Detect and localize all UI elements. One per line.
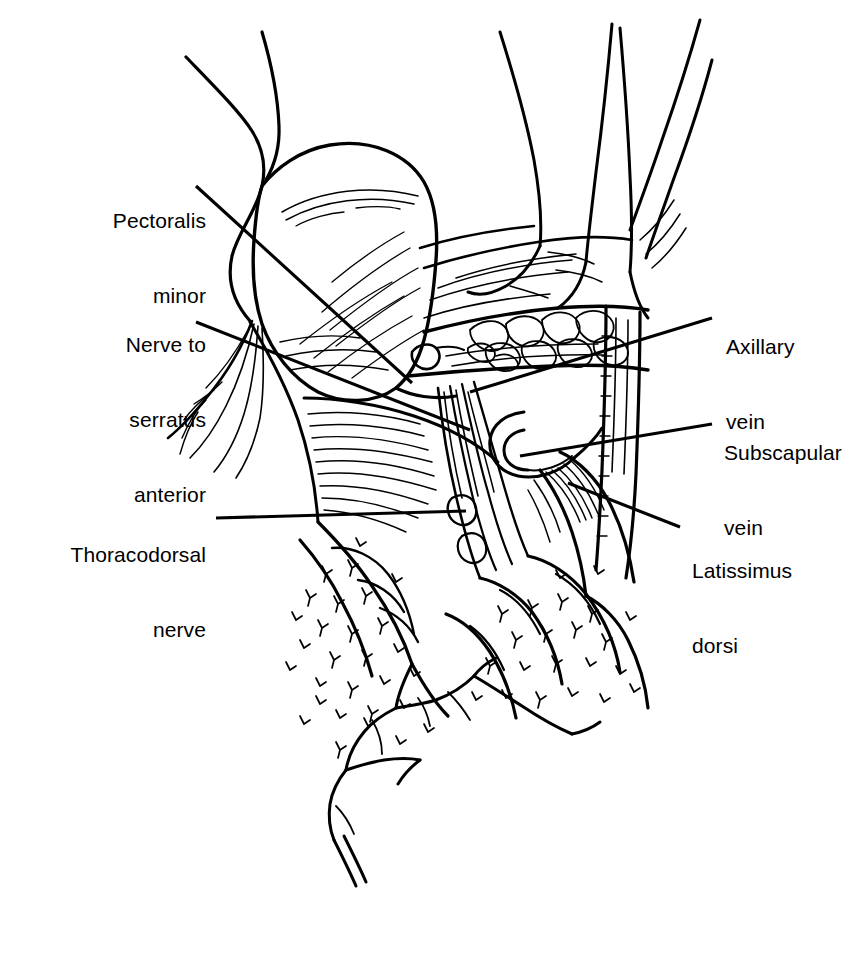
label-subscapular-vein-line1: Subscapular [724,440,864,465]
label-latissimus-dorsi-line1: Latissimus [692,558,832,583]
label-nerve-to-serratus-line2: serratus [70,407,206,432]
anatomical-figure: Pectoralis minor Nerve to serratus anter… [0,0,865,955]
label-thoracodorsal-line1: Thoracodorsal [24,542,206,567]
label-latissimus-dorsi-line2: dorsi [692,633,832,658]
label-latissimus-dorsi: Latissimus dorsi [692,508,832,708]
label-nerve-to-serratus-line1: Nerve to [70,332,206,357]
label-axillary-vein-line1: Axillary [726,334,856,359]
label-pectoralis-minor-line1: Pectoralis [88,208,206,233]
label-thoracodorsal-nerve: Thoracodorsal nerve [24,492,206,692]
label-thoracodorsal-line2: nerve [24,617,206,642]
